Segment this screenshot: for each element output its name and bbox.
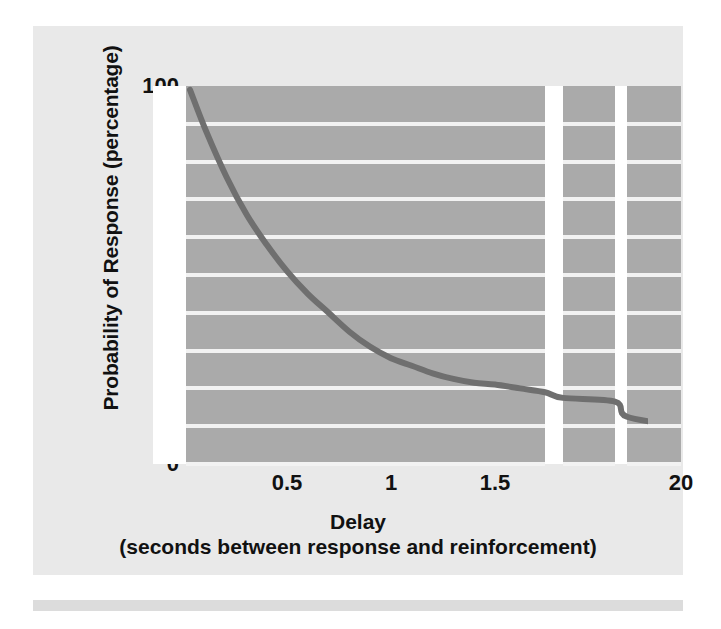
gridline-80 (627, 160, 681, 164)
x-tick-label-1-5: 1.5 (450, 472, 540, 494)
gridline-80 (563, 160, 615, 164)
gridline-40 (186, 311, 545, 315)
plot-panel-3 (627, 86, 681, 464)
gridline-10 (563, 424, 615, 428)
x-tick-label-20: 20 (636, 472, 721, 494)
gridline-40 (563, 311, 615, 315)
gridline-10 (627, 424, 681, 428)
gridline-60 (186, 235, 545, 239)
x-axis-tick-labels: 0.511.520 (153, 472, 648, 506)
gridline-30 (563, 349, 615, 353)
gridline-90 (186, 122, 545, 126)
gridline-60 (627, 235, 681, 239)
gridline-20 (563, 386, 615, 390)
x-tick-label-1: 1 (346, 472, 436, 494)
gridline-50 (563, 273, 615, 277)
plot-panel-2 (563, 86, 615, 464)
x-axis-title: Delay (33, 510, 683, 534)
gridline-70 (563, 197, 615, 201)
figure-panel: Probability of Response (percentage) 100… (33, 26, 683, 575)
gridline-10 (186, 424, 545, 428)
gridline-80 (186, 160, 545, 164)
gridline-0 (563, 462, 615, 466)
gridline-20 (627, 386, 681, 390)
gridline-0 (627, 462, 681, 466)
gridline-40 (627, 311, 681, 315)
gridline-30 (186, 349, 545, 353)
gridline-90 (563, 122, 615, 126)
gridline-20 (186, 386, 545, 390)
gridline-70 (186, 197, 545, 201)
bottom-divider-rule (33, 600, 683, 611)
plot-panel-1 (186, 86, 545, 464)
x-axis-subtitle: (seconds between response and reinforcem… (33, 535, 683, 559)
gridline-50 (627, 273, 681, 277)
gridline-60 (563, 235, 615, 239)
plot-area (153, 86, 648, 464)
x-tick-label-0-5: 0.5 (242, 472, 332, 494)
gridline-0 (186, 462, 545, 466)
gridline-50 (186, 273, 545, 277)
gridline-70 (627, 197, 681, 201)
gridline-30 (627, 349, 681, 353)
gridline-90 (627, 122, 681, 126)
